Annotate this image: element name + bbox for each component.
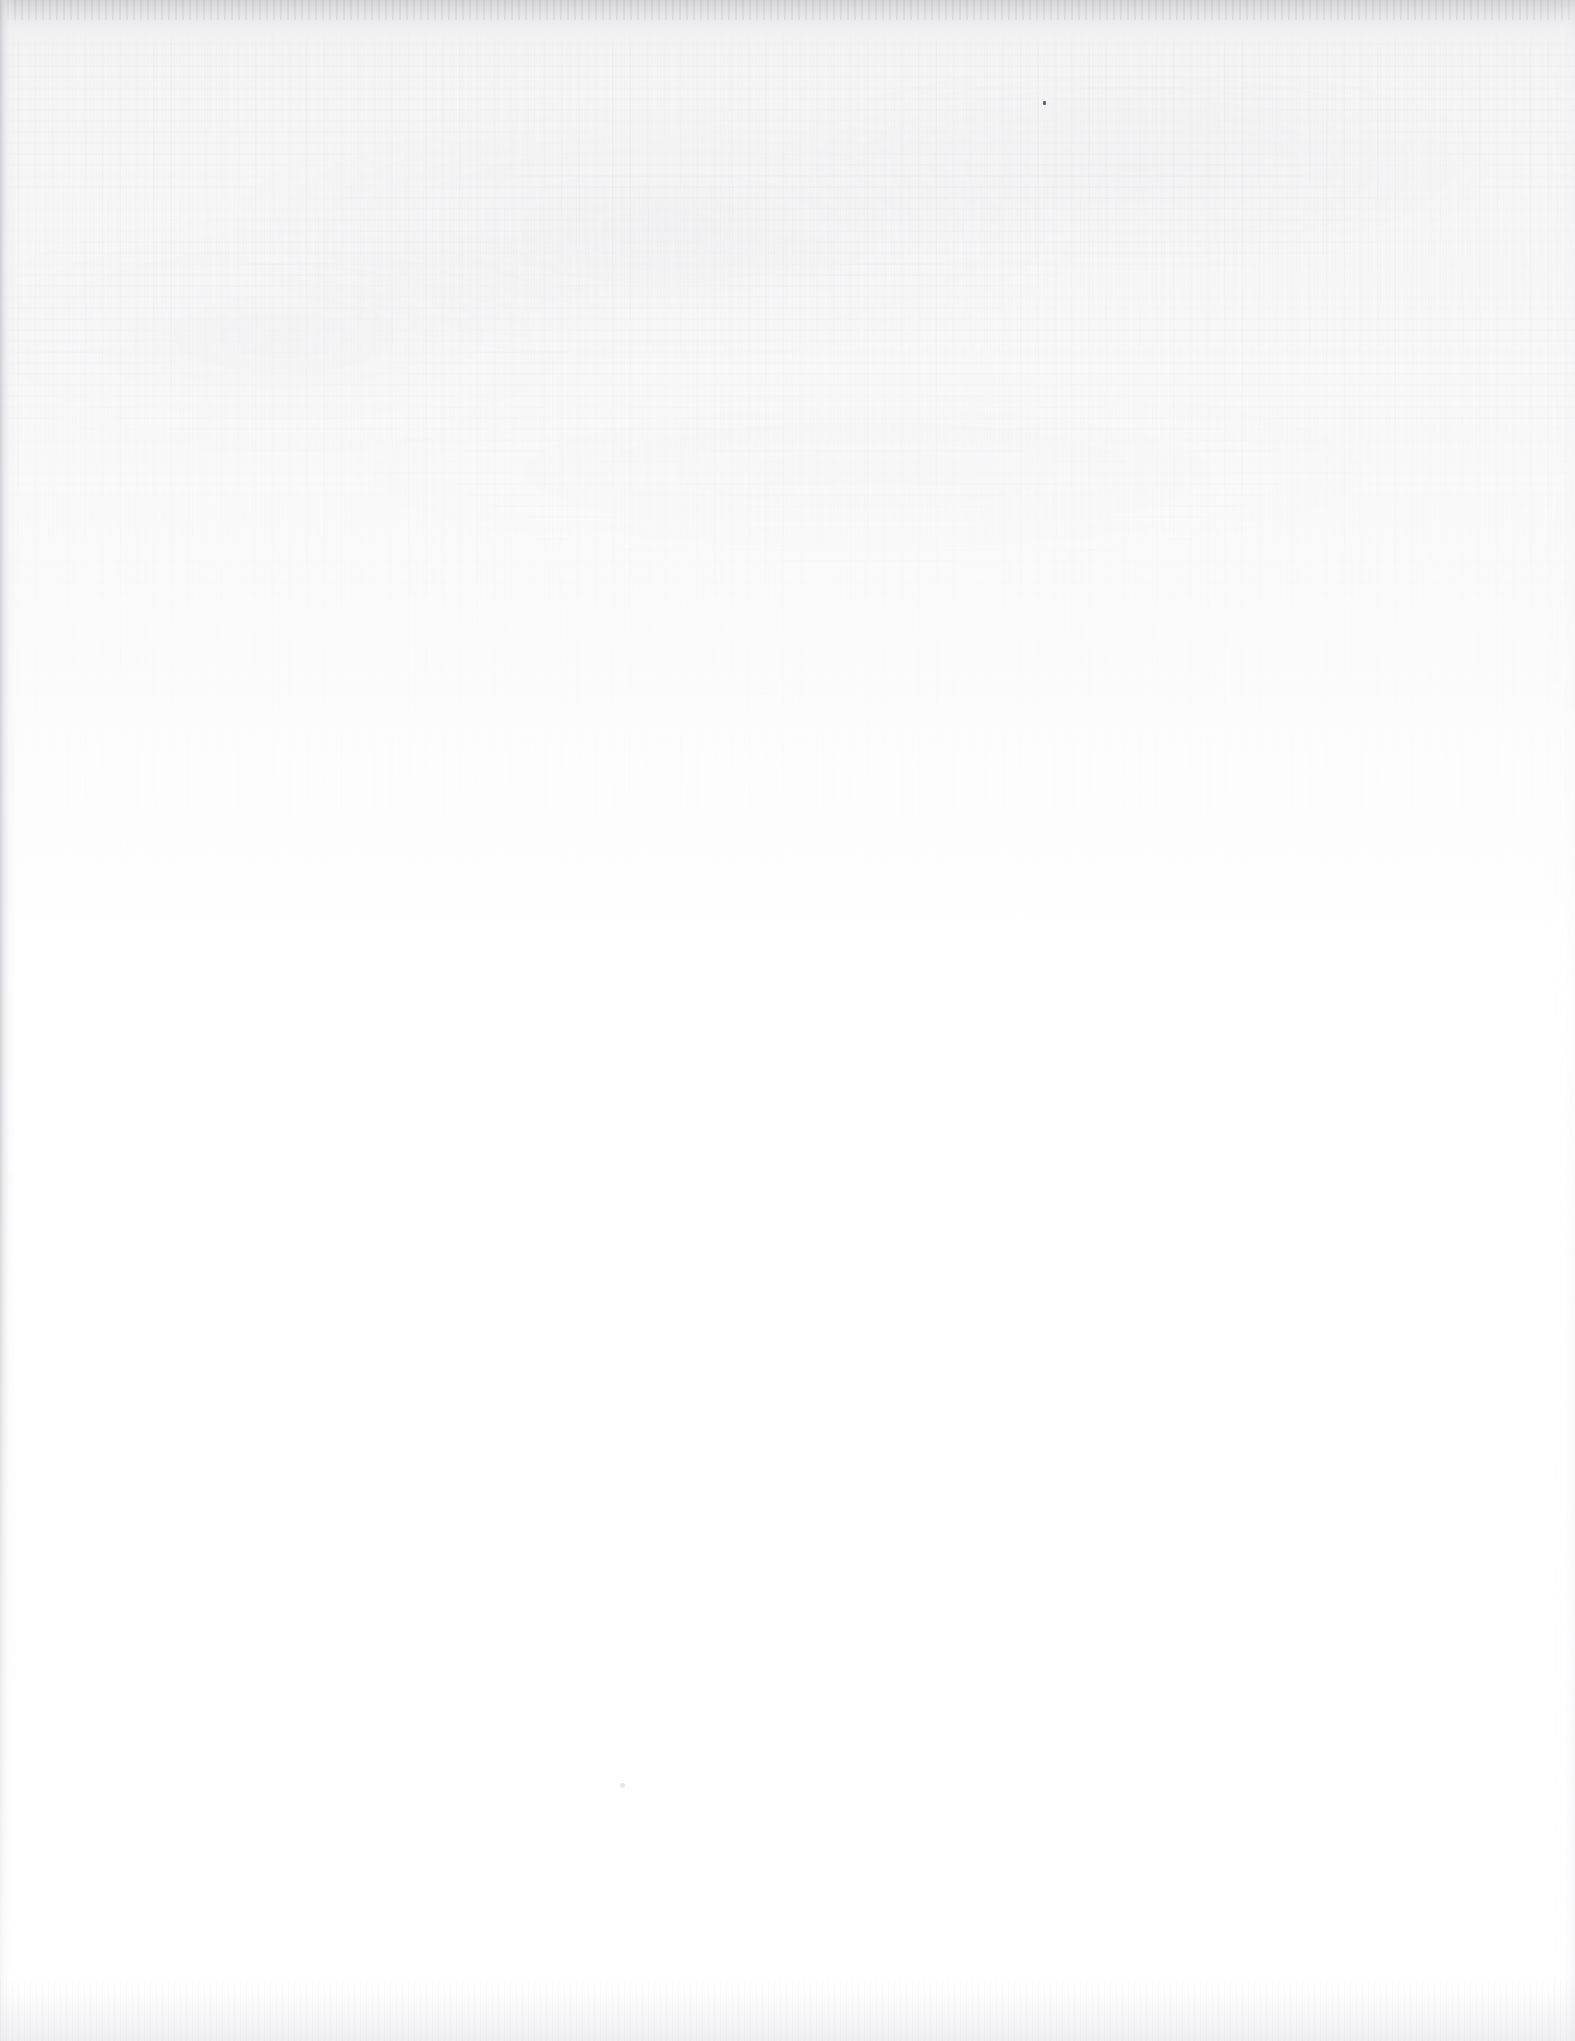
page-content-area <box>0 0 1575 2041</box>
scanned-page <box>0 0 1575 2041</box>
